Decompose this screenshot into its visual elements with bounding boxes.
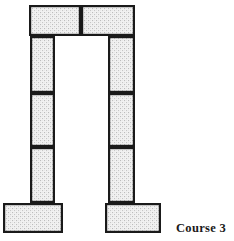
lintel-block-right xyxy=(82,6,134,35)
right-pier-block-upper xyxy=(109,37,134,92)
course-label: Course 3 xyxy=(176,222,226,235)
masonry-diagram: Course 3 xyxy=(0,0,234,241)
right-pier-block-middle xyxy=(109,94,134,146)
lintel-block-left xyxy=(30,6,80,35)
blocks-layer xyxy=(4,6,160,232)
right-pier-block-lower xyxy=(109,148,134,202)
left-pier-block-middle xyxy=(31,94,54,146)
left-pier-block-upper xyxy=(31,37,54,92)
left-pier-block-lower xyxy=(31,148,54,202)
right-footing-block xyxy=(106,204,160,232)
masonry-structure-svg xyxy=(0,0,234,241)
left-footing-block xyxy=(4,204,62,232)
